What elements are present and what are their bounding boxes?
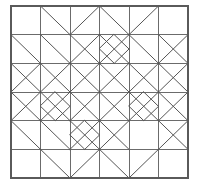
- diagonal-line: [41, 121, 71, 150]
- diagonal-line: [129, 35, 159, 64]
- quilt-block-diagram: [0, 0, 197, 184]
- diagonal-line: [70, 6, 100, 35]
- diagonal-line: [41, 6, 71, 35]
- diagonal-line: [41, 35, 71, 64]
- quilt-block-figure: [0, 0, 197, 184]
- diagonal-line: [100, 149, 130, 178]
- diagonal-line: [11, 35, 41, 64]
- diagonal-line: [129, 6, 159, 35]
- diagonal-line: [11, 121, 41, 150]
- diagonal-line: [100, 6, 130, 35]
- diagonal-line: [70, 149, 100, 178]
- diagonal-line: [129, 149, 159, 178]
- diagonal-line: [41, 149, 71, 178]
